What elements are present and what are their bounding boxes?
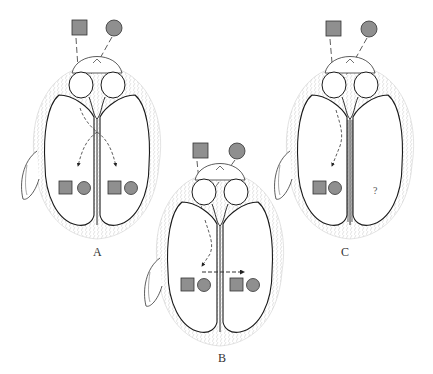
panel-c: ? C — [275, 21, 414, 259]
left-hemisphere-circle — [78, 182, 91, 195]
panel-label-c: C — [341, 245, 349, 259]
stimulus-square — [193, 143, 208, 158]
panel-a: A — [22, 20, 161, 259]
panel-b: B — [145, 143, 284, 365]
stimulus-circle — [361, 21, 377, 37]
right-hemisphere-square — [108, 181, 121, 194]
right-hemisphere-square — [230, 278, 243, 291]
stimulus-square — [72, 20, 87, 35]
right-hemisphere-circle — [247, 279, 260, 292]
stimulus-circle — [106, 20, 122, 36]
left-hemisphere-square — [313, 181, 326, 194]
left-hemisphere-circle — [329, 182, 342, 195]
left-hemisphere-square — [181, 278, 194, 291]
panel-label-b: B — [218, 351, 226, 365]
left-hemisphere-square — [59, 181, 72, 194]
panel-label-a: A — [93, 245, 102, 259]
unknown-marker: ? — [373, 185, 378, 196]
stimulus-circle — [229, 143, 245, 159]
stimulus-square — [326, 21, 341, 36]
left-hemisphere-circle — [198, 279, 211, 292]
right-hemisphere-circle — [125, 182, 138, 195]
split-brain-figure: A B ? C — [0, 0, 433, 374]
